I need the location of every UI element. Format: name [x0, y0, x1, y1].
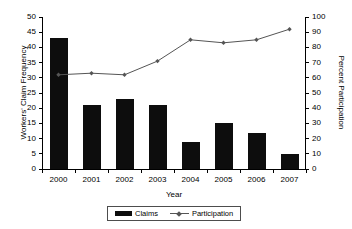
y-right-tick — [306, 47, 309, 48]
x-tick-label: 2001 — [75, 176, 109, 184]
participation-marker-2005 — [221, 41, 225, 45]
y-right-tick — [306, 138, 309, 139]
y-left-tick-label: 15 — [14, 119, 36, 127]
participation-marker-2001 — [89, 71, 93, 75]
chart-container: Workers' Claim Frequency Percent Partici… — [0, 0, 352, 229]
y-right-tick-label: 10 — [312, 150, 336, 158]
y-right-tick — [306, 123, 309, 124]
y-right-tick — [306, 77, 309, 78]
chart-legend: Claims Participation — [107, 206, 241, 221]
y-left-tick-label: 25 — [14, 89, 36, 97]
legend-label-claims: Claims — [135, 209, 158, 218]
y-right-tick-label: 90 — [312, 28, 336, 36]
legend-item-claims: Claims — [115, 209, 158, 218]
y-right-tick-label: 20 — [312, 135, 336, 143]
y-left-tick-label: 0 — [14, 165, 36, 173]
participation-marker-2007 — [287, 27, 291, 31]
x-tick — [108, 170, 109, 173]
x-tick — [75, 170, 76, 173]
x-tick-label: 2002 — [108, 176, 142, 184]
y-right-tick — [306, 93, 309, 94]
y-left-tick-label: 35 — [14, 59, 36, 67]
legend-item-participation: Participation — [170, 209, 233, 218]
x-axis-title: Year — [40, 190, 308, 199]
y-left-tick-label: 40 — [14, 43, 36, 51]
x-tick-label: 2005 — [207, 176, 241, 184]
y-left-tick-label: 5 — [14, 150, 36, 158]
y-right-tick — [306, 32, 309, 33]
x-tick — [273, 170, 274, 173]
y-right-tick — [306, 17, 309, 18]
legend-bar-swatch-icon — [115, 211, 132, 216]
legend-line-swatch-icon — [170, 210, 189, 217]
y-right-tick-label: 40 — [312, 104, 336, 112]
y-left-tick-label: 30 — [14, 74, 36, 82]
x-tick — [42, 170, 43, 173]
y-right-tick — [306, 153, 309, 154]
y-right-tick-label: 70 — [312, 59, 336, 67]
y-axis-right-title: Percent Participation — [337, 18, 346, 168]
x-tick — [240, 170, 241, 173]
x-tick — [306, 170, 307, 173]
x-tick-label: 2004 — [174, 176, 208, 184]
y-right-tick — [306, 108, 309, 109]
participation-marker-2002 — [122, 73, 126, 77]
x-tick — [174, 170, 175, 173]
y-right-tick-label: 100 — [312, 13, 336, 21]
legend-label-participation: Participation — [192, 209, 233, 218]
y-left-tick-label: 45 — [14, 28, 36, 36]
participation-marker-2000 — [56, 73, 60, 77]
x-tick — [141, 170, 142, 173]
plot-area: 05101520253035404550 0102030405060708090… — [42, 17, 306, 169]
y-right-tick-label: 0 — [312, 165, 336, 173]
participation-marker-2006 — [254, 38, 258, 42]
x-tick-label: 2003 — [141, 176, 175, 184]
y-right-tick-label: 50 — [312, 89, 336, 97]
x-tick-label: 2000 — [42, 176, 76, 184]
participation-markers — [56, 27, 291, 77]
participation-line — [59, 29, 290, 75]
y-left-tick-label: 50 — [14, 13, 36, 21]
line-series-participation — [42, 17, 306, 170]
y-left-tick-label: 20 — [14, 104, 36, 112]
y-right-tick-label: 60 — [312, 74, 336, 82]
y-right-tick-label: 80 — [312, 43, 336, 51]
y-left-tick-label: 10 — [14, 135, 36, 143]
y-right-tick-label: 30 — [312, 119, 336, 127]
y-right-tick — [306, 62, 309, 63]
x-tick — [207, 170, 208, 173]
x-tick-label: 2007 — [273, 176, 307, 184]
x-tick-label: 2006 — [240, 176, 274, 184]
